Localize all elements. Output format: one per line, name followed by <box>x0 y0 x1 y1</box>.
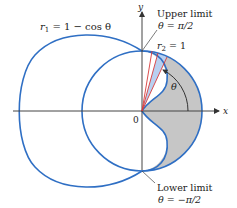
lower-limit-title: Lower limit <box>157 182 212 193</box>
cardioid-label: r1 = 1 − cos θ <box>40 21 111 34</box>
lower-limit-value: θ = −π/2 <box>158 194 201 205</box>
x-axis-label: x <box>223 106 228 116</box>
angle-label: θ <box>171 81 177 92</box>
upper-limit-title: Upper limit <box>157 8 212 19</box>
upper-limit-leader <box>142 30 157 51</box>
circle-label: r2 = 1 <box>157 40 186 53</box>
upper-limit-value: θ = π/2 <box>158 20 193 31</box>
origin-label: 0 <box>133 115 139 125</box>
polar-area-diagram: r1 = 1 − cos θ y x 0 Upper limit θ = π/2… <box>0 0 237 208</box>
y-axis-label: y <box>137 2 144 12</box>
lower-limit-leader <box>142 171 155 183</box>
